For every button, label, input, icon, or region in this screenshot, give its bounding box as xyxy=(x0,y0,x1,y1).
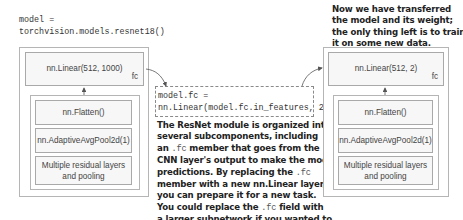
connector-arrows xyxy=(0,0,463,220)
curved-arrow-icon xyxy=(146,69,166,86)
curved-arrow-icon xyxy=(302,68,322,86)
